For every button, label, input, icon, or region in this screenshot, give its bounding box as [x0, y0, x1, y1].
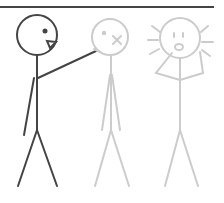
- shake-lines-left: [148, 26, 160, 54]
- leg-right: [37, 130, 57, 186]
- leg-right: [180, 130, 198, 186]
- arm-right: [180, 52, 203, 80]
- eye: [102, 31, 106, 35]
- leg-left: [18, 130, 37, 186]
- mouth-gasp: [175, 44, 183, 50]
- arm-pointing: [38, 51, 96, 78]
- leg-right: [111, 130, 129, 186]
- figure-poked: [92, 19, 129, 186]
- leg-left: [165, 130, 180, 186]
- arm-right: [112, 75, 120, 130]
- x-eye: [113, 36, 121, 44]
- head: [17, 15, 57, 55]
- arm-down: [24, 78, 34, 135]
- comic-illustration: [0, 0, 224, 203]
- eye: [43, 29, 48, 34]
- mouth: [47, 41, 56, 48]
- comic-panel: [0, 0, 224, 203]
- shake-lines-right: [201, 26, 213, 56]
- arm-left: [102, 75, 110, 130]
- figure-pointer: [17, 15, 96, 186]
- figure-shocked: [148, 18, 213, 186]
- head: [160, 18, 200, 58]
- leg-left: [95, 130, 111, 186]
